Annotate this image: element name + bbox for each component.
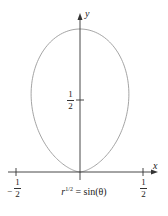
caption-exponent: 1/2 xyxy=(65,186,73,192)
y-axis-label: y xyxy=(85,9,89,19)
y-axis-arrow-icon xyxy=(78,13,83,20)
chart-caption: r1/2 = sin(θ) xyxy=(0,186,168,197)
y-tick-label-half: 1 2 xyxy=(67,90,74,111)
tick-numerator: 1 xyxy=(68,90,73,99)
tick-denominator: 2 xyxy=(68,102,73,111)
caption-rhs: = sin(θ) xyxy=(73,186,107,197)
x-axis-label: x xyxy=(153,161,157,171)
